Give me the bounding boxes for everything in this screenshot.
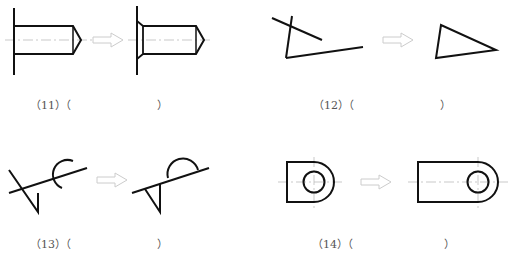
figure-12-after xyxy=(436,25,496,58)
label-11-close: ） xyxy=(157,96,168,112)
label-12-close: ） xyxy=(440,96,451,112)
arrow-13 xyxy=(97,173,127,187)
figure-13-after xyxy=(132,158,209,212)
diagram-canvas xyxy=(0,0,509,256)
label-11-open: （11）（ xyxy=(30,96,72,112)
label-14-open: （14）（ xyxy=(312,235,354,251)
figure-12-before xyxy=(272,16,363,58)
figure-14-after xyxy=(408,157,508,208)
figure-13-before xyxy=(9,160,87,212)
figure-11-before xyxy=(5,8,92,75)
figure-14-before xyxy=(278,157,342,208)
label-14-close: ） xyxy=(444,235,455,251)
label-12-open: （12）（ xyxy=(313,96,355,112)
label-13-close: ） xyxy=(157,235,168,251)
arrow-11 xyxy=(93,33,123,47)
arrow-12 xyxy=(383,33,413,47)
arrow-14 xyxy=(361,175,391,189)
label-13-open: （13）（ xyxy=(30,235,72,251)
figure-11-after xyxy=(128,6,212,75)
